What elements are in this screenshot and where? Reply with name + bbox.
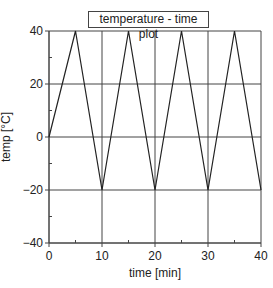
y-tick-label: −40 bbox=[23, 236, 44, 250]
y-tick-label: −20 bbox=[23, 183, 44, 197]
chart-title: temperature - time plot bbox=[88, 11, 209, 28]
y-tick-label: 0 bbox=[36, 130, 43, 144]
x-tick-label: 20 bbox=[148, 249, 162, 263]
x-tick-label: 30 bbox=[201, 249, 215, 263]
x-tick-label: 0 bbox=[46, 249, 53, 263]
y-axis-label: temp [°C] bbox=[0, 112, 13, 162]
y-tick-label: 40 bbox=[30, 24, 44, 38]
x-tick-label: 40 bbox=[254, 249, 268, 263]
y-tick-label: 20 bbox=[30, 77, 44, 91]
x-axis-label: time [min] bbox=[0, 266, 273, 280]
x-tick-label: 10 bbox=[95, 249, 109, 263]
chart-canvas: 010203040−40−2002040 bbox=[0, 0, 273, 288]
